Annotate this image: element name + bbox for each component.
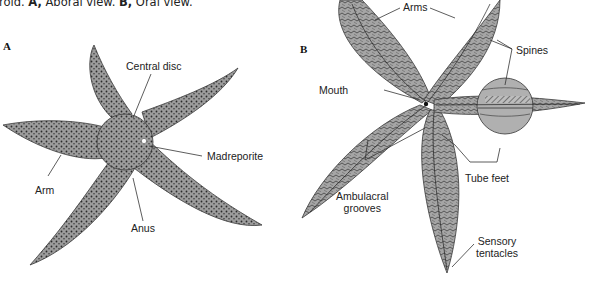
magnified-detail <box>477 78 533 134</box>
madreporite-marker <box>141 138 146 143</box>
label-arms: Arms <box>403 1 428 13</box>
label-central-disc: Central disc <box>126 60 181 72</box>
mouth-marker <box>424 102 428 106</box>
label-madreporite: Madreporite <box>207 150 263 162</box>
panel-letter-b: B <box>300 43 307 55</box>
label-tube-feet: Tube feet <box>465 172 509 184</box>
label-arm: Arm <box>35 184 54 196</box>
label-spines: Spines <box>516 44 548 56</box>
label-ambulacral-line2: grooves <box>336 202 389 214</box>
label-ambulacral-grooves: Ambulacral grooves <box>336 190 389 214</box>
label-sensory-line1: Sensory <box>476 235 518 247</box>
label-anus: Anus <box>131 222 155 234</box>
label-sensory-line2: tentacles <box>476 247 518 259</box>
panel-letter-a: A <box>3 40 11 52</box>
label-mouth: Mouth <box>319 84 348 96</box>
label-ambulacral-line1: Ambulacral <box>336 190 389 202</box>
label-sensory-tentacles: Sensory tentacles <box>476 235 518 259</box>
